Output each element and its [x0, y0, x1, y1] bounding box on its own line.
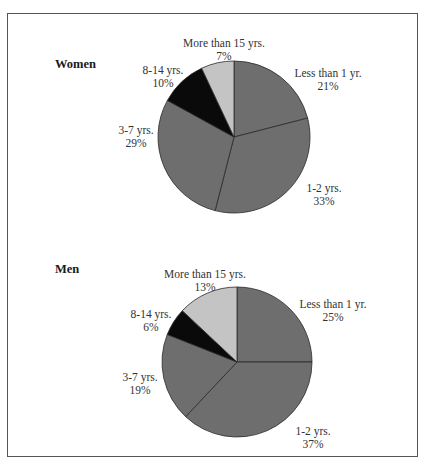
women-label-8-14: 8-14 yrs. 10% — [143, 64, 184, 90]
label-name: More than 15 yrs. — [183, 37, 265, 50]
women-title: Women — [55, 57, 96, 72]
label-name: 1-2 yrs. — [306, 182, 341, 195]
label-pct: 25% — [299, 311, 366, 324]
label-pct: 7% — [183, 50, 265, 63]
label-pct: 29% — [118, 137, 153, 150]
label-pct: 10% — [143, 77, 184, 90]
label-name: 3-7 yrs. — [118, 124, 153, 137]
women-label-3-7: 3-7 yrs. 29% — [118, 124, 153, 150]
label-name: Less than 1 yr. — [299, 298, 366, 311]
men-label-3-7: 3-7 yrs. 19% — [122, 371, 157, 397]
label-name: 1-2 yrs. — [295, 425, 330, 438]
label-pct: 6% — [131, 321, 172, 334]
label-name: 3-7 yrs. — [122, 371, 157, 384]
label-pct: 33% — [306, 195, 341, 208]
men-pie — [162, 287, 312, 437]
women-label-less-than-1: Less than 1 yr. 21% — [294, 67, 361, 93]
label-pct: 37% — [295, 438, 330, 451]
men-label-1-2: 1-2 yrs. 37% — [295, 425, 330, 451]
label-name: 8-14 yrs. — [131, 308, 172, 321]
label-pct: 19% — [122, 384, 157, 397]
women-label-1-2: 1-2 yrs. 33% — [306, 182, 341, 208]
label-pct: 21% — [294, 80, 361, 93]
men-title: Men — [55, 262, 79, 277]
men-label-more-than-15: More than 15 yrs. 13% — [164, 268, 246, 294]
label-name: 8-14 yrs. — [143, 64, 184, 77]
label-name: More than 15 yrs. — [164, 268, 246, 281]
men-label-8-14: 8-14 yrs. 6% — [131, 308, 172, 334]
label-pct: 13% — [164, 281, 246, 294]
men-label-less-than-1: Less than 1 yr. 25% — [299, 298, 366, 324]
women-label-more-than-15: More than 15 yrs. 7% — [183, 37, 265, 63]
label-name: Less than 1 yr. — [294, 67, 361, 80]
